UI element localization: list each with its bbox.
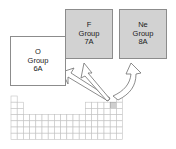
periodic-table-cell: [116, 115, 122, 121]
group-number: 8A: [138, 38, 147, 47]
periodic-table-cell: [116, 127, 122, 133]
periodic-table-cell: [73, 115, 79, 121]
periodic-table-cell: [61, 115, 67, 121]
periodic-table-cell: [17, 115, 23, 121]
periodic-table-cell: [17, 102, 23, 108]
periodic-table-cell: [48, 121, 54, 127]
periodic-table-cell: [11, 133, 17, 139]
periodic-table-cell: [110, 121, 116, 127]
periodic-table-cell: [23, 121, 29, 127]
periodic-table-cell: [104, 127, 110, 133]
periodic-table-cell: [98, 127, 104, 133]
periodic-table-cell: [73, 121, 79, 127]
periodic-table-cell: [104, 133, 110, 139]
periodic-table-cell: [85, 115, 91, 121]
periodic-table-cell: [79, 115, 85, 121]
periodic-table-cell: [11, 115, 17, 121]
periodic-table-cell: [104, 108, 110, 114]
periodic-table-cell: [85, 108, 91, 114]
periodic-table-cell: [79, 127, 85, 133]
periodic-table-cell: [104, 102, 110, 108]
periodic-table-cell: [36, 115, 42, 121]
periodic-table-cell: [92, 115, 98, 121]
periodic-table-cell: [54, 127, 60, 133]
periodic-table-cell: [48, 133, 54, 139]
periodic-table-cell: [17, 127, 23, 133]
periodic-table-cell: [116, 96, 122, 102]
periodic-table-cell: [98, 115, 104, 121]
periodic-table-cell: [104, 121, 110, 127]
periodic-table-cell: [98, 108, 104, 114]
periodic-table-cell: [42, 127, 48, 133]
periodic-table-cell: [67, 115, 73, 121]
periodic-table-cell: [36, 133, 42, 139]
periodic-table-cell: [92, 127, 98, 133]
callout-box-oxygen[interactable]: O Group 6A: [10, 36, 66, 86]
periodic-table-cell: [48, 115, 54, 121]
periodic-table-cell: [110, 115, 116, 121]
periodic-table-cell: [23, 115, 29, 121]
periodic-table-cell: [98, 133, 104, 139]
periodic-table-cell: [79, 121, 85, 127]
periodic-table-cell: [42, 121, 48, 127]
periodic-table-cell: [116, 108, 122, 114]
group-number: 7A: [84, 38, 93, 47]
periodic-table-cell: [17, 133, 23, 139]
periodic-table-cell: [61, 121, 67, 127]
periodic-table-cell: [67, 127, 73, 133]
periodic-table-cell: [30, 115, 36, 121]
periodic-table-cell: [73, 127, 79, 133]
periodic-table-cell: [92, 133, 98, 139]
periodic-table-cell: [11, 96, 17, 102]
periodic-table-cell: [92, 102, 98, 108]
periodic-table-cell: [30, 121, 36, 127]
periodic-table-cell: [61, 133, 67, 139]
periodic-table-cell: [23, 133, 29, 139]
periodic-table-cell: [61, 127, 67, 133]
periodic-table-cell: [116, 102, 122, 108]
periodic-table-cell: [36, 127, 42, 133]
periodic-table-cell: [54, 121, 60, 127]
periodic-table-cell: [104, 115, 110, 121]
periodic-table-cell: [92, 121, 98, 127]
periodic-table-cell: [110, 108, 116, 114]
periodic-table-cell: [98, 102, 104, 108]
periodic-table-cell: [85, 127, 91, 133]
periodic-table-cell: [36, 121, 42, 127]
periodic-table-cell: [11, 108, 17, 114]
periodic-table-cell: [110, 133, 116, 139]
periodic-table-cell: [85, 133, 91, 139]
periodic-table-cell: [17, 121, 23, 127]
periodic-table-cell: [85, 102, 91, 108]
periodic-table-cell: [42, 133, 48, 139]
periodic-table-cell: [67, 133, 73, 139]
callout-box-fluorine[interactable]: F Group 7A: [65, 9, 113, 59]
periodic-table-cell: [54, 115, 60, 121]
periodic-table-cell: [23, 127, 29, 133]
periodic-table-cell: [11, 127, 17, 133]
periodic-table-cell: [92, 108, 98, 114]
periodic-table-cell: [11, 102, 17, 108]
periodic-table-cell: [110, 127, 116, 133]
periodic-table-cell-highlighted: [110, 102, 116, 108]
periodic-table-cell: [17, 108, 23, 114]
periodic-table-cell: [98, 121, 104, 127]
periodic-table-group-diagram: O Group 6A F Group 7A Ne Group 8A: [0, 0, 176, 149]
periodic-table-cell: [116, 121, 122, 127]
periodic-table-cell: [67, 121, 73, 127]
callout-box-neon[interactable]: Ne Group 8A: [119, 9, 167, 59]
periodic-table-cell: [30, 133, 36, 139]
periodic-table-cell: [42, 115, 48, 121]
group-number: 6A: [33, 65, 42, 74]
periodic-table-cell: [116, 133, 122, 139]
periodic-table-cell: [85, 121, 91, 127]
periodic-table-cell: [30, 127, 36, 133]
periodic-table-cell: [54, 133, 60, 139]
periodic-table-cell: [73, 133, 79, 139]
periodic-table-cell: [11, 121, 17, 127]
periodic-table-cell: [79, 133, 85, 139]
periodic-table-cell: [48, 127, 54, 133]
